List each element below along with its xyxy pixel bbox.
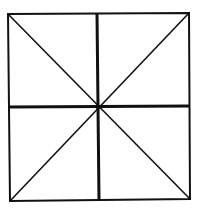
square-diagram	[0, 0, 206, 210]
center-point	[96, 105, 100, 109]
